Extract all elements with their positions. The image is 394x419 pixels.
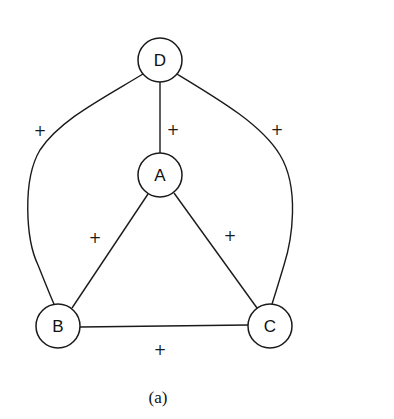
- edge-b-c: [80, 325, 248, 327]
- sign-label-d-c: +: [271, 121, 284, 139]
- node-d: D: [138, 38, 182, 82]
- sign-label-a-c: +: [224, 227, 237, 245]
- node-b-label: B: [52, 317, 63, 336]
- node-a-label: A: [154, 166, 166, 185]
- signed-graph-diagram: + + + + + + D A B C (a): [0, 0, 394, 419]
- edge-d-b: [28, 74, 143, 304]
- edges: [28, 74, 293, 327]
- edge-a-c: [174, 193, 257, 308]
- edge-a-b: [72, 194, 148, 308]
- node-a: A: [138, 153, 182, 197]
- node-b: B: [36, 304, 80, 348]
- edge-d-c: [177, 74, 293, 304]
- sign-label-d-a: +: [167, 121, 180, 139]
- figure-caption: (a): [149, 388, 168, 407]
- node-c: C: [248, 304, 292, 348]
- node-c-label: C: [264, 317, 276, 336]
- sign-label-a-b: +: [89, 229, 102, 247]
- sign-label-b-c: +: [154, 341, 167, 359]
- sign-label-d-b: +: [34, 122, 47, 140]
- node-d-label: D: [154, 51, 166, 70]
